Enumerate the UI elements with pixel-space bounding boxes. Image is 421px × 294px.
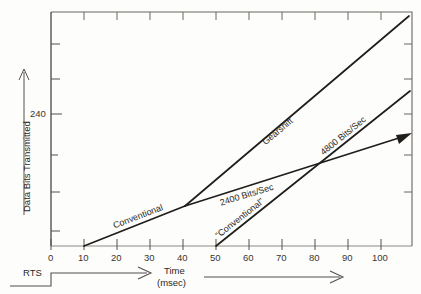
series-line-2400	[185, 137, 402, 206]
x-tick-label-30: 30	[144, 253, 155, 263]
x-tick-label-100: 100	[372, 253, 388, 263]
x-tick-label-70: 70	[276, 253, 287, 263]
top-axis-ticks	[84, 12, 381, 20]
time-axis-arrow	[204, 271, 343, 283]
series-arrow-2400	[396, 133, 412, 144]
chart-figure: 240 Data Bits Transmitted 0 10 20 30 40 …	[0, 0, 421, 294]
x-tick-label-20: 20	[111, 253, 122, 263]
x-axis-subtitle: (msec)	[157, 278, 186, 288]
y-axis-title: Data Bits Transmitted	[22, 121, 32, 212]
x-tick-label-0: 0	[48, 253, 53, 263]
x-axis-ticks	[51, 239, 381, 250]
right-axis-ticks	[404, 44, 412, 192]
x-tick-label-90: 90	[342, 253, 353, 263]
rts-label: RTS	[23, 268, 42, 278]
y-tick-label-240: 240	[30, 109, 46, 119]
x-tick-label-10: 10	[78, 253, 89, 263]
chart-canvas	[0, 0, 421, 294]
series-line-4800	[216, 91, 410, 246]
y-axis-ticks	[51, 44, 62, 231]
x-axis-title: Time	[164, 266, 185, 276]
x-tick-label-50: 50	[210, 253, 221, 263]
x-tick-label-80: 80	[309, 253, 320, 263]
series-line-gearshift	[185, 16, 409, 206]
x-tick-label-60: 60	[243, 253, 254, 263]
x-tick-label-40: 40	[177, 253, 188, 263]
